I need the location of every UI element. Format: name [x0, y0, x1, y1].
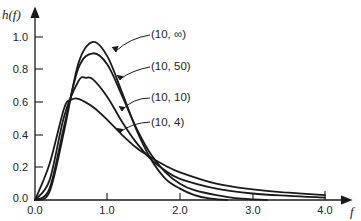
series-label-10-4: (10, 4) [151, 116, 184, 128]
x-tick-label: 0.0 [27, 204, 42, 216]
x-tick-label: 4.0 [317, 204, 332, 216]
x-tick-label: 1.0 [99, 204, 114, 216]
y-tick-label: 0.0 [13, 192, 28, 204]
x-tick-label: 3.0 [245, 204, 260, 216]
y-tick-label: 0.6 [13, 96, 28, 108]
y-tick-label: 0.2 [13, 161, 28, 173]
y-ticks [35, 37, 43, 167]
y-tick-label: 1.0 [13, 31, 28, 43]
series-label-10-50: (10, 50) [151, 60, 191, 72]
chart: 1.0 0.8 0.6 0.4 0.2 0.0 0.0 1.0 2.0 3.0 … [0, 0, 361, 221]
x-axis-title: f [350, 204, 356, 219]
y-tick-label: 0.8 [13, 63, 28, 75]
series-label-10-10: (10, 10) [151, 91, 191, 103]
y-axis-title: h(f) [2, 7, 21, 22]
x-tick-label: 2.0 [172, 204, 187, 216]
series-label-10-inf: (10, ∞) [151, 28, 186, 40]
y-tick-label: 0.4 [13, 129, 28, 141]
